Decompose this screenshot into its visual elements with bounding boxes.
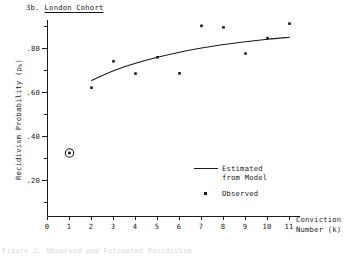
legend-label-estimated-line2: from Model (222, 173, 267, 182)
observed-point-k1 (68, 152, 71, 155)
legend-entry-observed: Observed (222, 189, 267, 198)
observed-point-k11 (288, 22, 291, 25)
chart-legend: Estimated from Model Observed (222, 164, 267, 198)
legend-dot-swatch (194, 189, 218, 198)
observed-point-k5 (156, 56, 159, 59)
observed-point-k9 (244, 52, 247, 55)
observed-point-k6 (178, 72, 181, 75)
observed-point-k10 (266, 37, 269, 40)
legend-line-swatch (194, 164, 218, 173)
figure-panel: 3b.London Cohort Recidivism Probability … (0, 0, 347, 256)
legend-entry-estimated: Estimated from Model (222, 164, 267, 182)
legend-spacer (222, 182, 267, 189)
observed-point-k3 (112, 60, 115, 63)
x-axis-ticks (48, 217, 290, 221)
observed-point-k7 (200, 25, 203, 28)
plot-canvas (0, 0, 347, 256)
y-axis-ticks (42, 27, 48, 203)
observed-point-k8 (222, 26, 225, 29)
legend-label-estimated-line1: Estimated (222, 164, 267, 173)
cutoff-caption: Figure 3. Observed and Estimated Recidiv… (2, 247, 192, 254)
observed-point-k2 (90, 86, 93, 89)
estimated-model-curve (92, 37, 290, 80)
observed-markers-group (65, 22, 291, 157)
legend-label-observed: Observed (222, 189, 267, 198)
observed-point-k4 (134, 72, 137, 75)
